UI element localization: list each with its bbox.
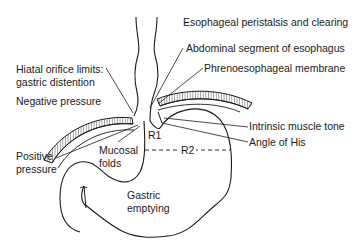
leader-hiatal: [106, 68, 133, 113]
esophagus-left-wall: [134, 17, 139, 116]
label-positive-pressure-1: Positive: [16, 150, 53, 163]
label-intrinsic-muscle-tone: Intrinsic muscle tone: [249, 120, 345, 133]
gej-diagram: Esophageal peristalsis and clearing Abdo…: [0, 0, 359, 242]
esophagus-junction-right: [150, 121, 160, 129]
label-positive-pressure-2: pressure: [16, 163, 57, 176]
leader-intrinsic: [164, 118, 248, 127]
label-r2: R2: [179, 144, 196, 157]
label-gastric-emptying-2: emptying: [127, 202, 170, 215]
label-mucosal-folds-1: Mucosal: [99, 144, 138, 157]
label-phrenoesophageal-membrane: Phrenoesophageal membrane: [204, 62, 345, 75]
label-mucosal-folds-2: folds: [99, 157, 121, 170]
label-abdominal-segment: Abdominal segment of esophagus: [186, 42, 345, 55]
label-gastric-emptying-1: Gastric: [127, 189, 160, 202]
label-angle-of-his: Angle of His: [249, 136, 306, 149]
label-r1: R1: [148, 129, 161, 142]
angle-notch: [158, 112, 162, 123]
label-hiatal-orifice-1: Hiatal orifice limits:: [16, 63, 104, 76]
label-negative-pressure: Negative pressure: [16, 95, 101, 108]
label-hiatal-orifice-2: gastric distention: [16, 76, 95, 89]
right-diaphragm-lower: [158, 104, 240, 112]
label-peristalsis: Esophageal peristalsis and clearing: [183, 16, 348, 29]
